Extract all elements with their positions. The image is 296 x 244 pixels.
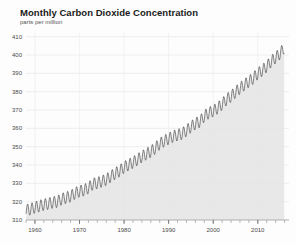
- svg-text:1980: 1980: [117, 227, 131, 233]
- svg-text:360: 360: [12, 125, 23, 131]
- svg-text:320: 320: [12, 199, 23, 205]
- chart-container: Monthly Carbon Dioxide Concentration par…: [0, 0, 296, 244]
- x-axis: [26, 220, 289, 224]
- series-area-fill: [26, 46, 284, 220]
- svg-text:1960: 1960: [28, 227, 42, 233]
- svg-text:310: 310: [12, 217, 23, 223]
- svg-text:350: 350: [12, 144, 23, 150]
- svg-text:340: 340: [12, 162, 23, 168]
- svg-text:1970: 1970: [73, 227, 87, 233]
- chart-svg: 310320330340350360370380390400410 196019…: [0, 0, 296, 244]
- svg-text:2010: 2010: [251, 227, 265, 233]
- svg-text:390: 390: [12, 70, 23, 76]
- plot-area: 310320330340350360370380390400410 196019…: [0, 0, 296, 244]
- svg-text:1990: 1990: [162, 227, 176, 233]
- y-axis-tick-labels: 310320330340350360370380390400410: [12, 34, 23, 223]
- svg-text:380: 380: [12, 89, 23, 95]
- svg-text:330: 330: [12, 180, 23, 186]
- x-axis-tick-labels: 196019701980199020002010: [28, 227, 265, 233]
- svg-text:400: 400: [12, 52, 23, 58]
- svg-text:410: 410: [12, 34, 23, 40]
- svg-text:2000: 2000: [207, 227, 221, 233]
- svg-text:370: 370: [12, 107, 23, 113]
